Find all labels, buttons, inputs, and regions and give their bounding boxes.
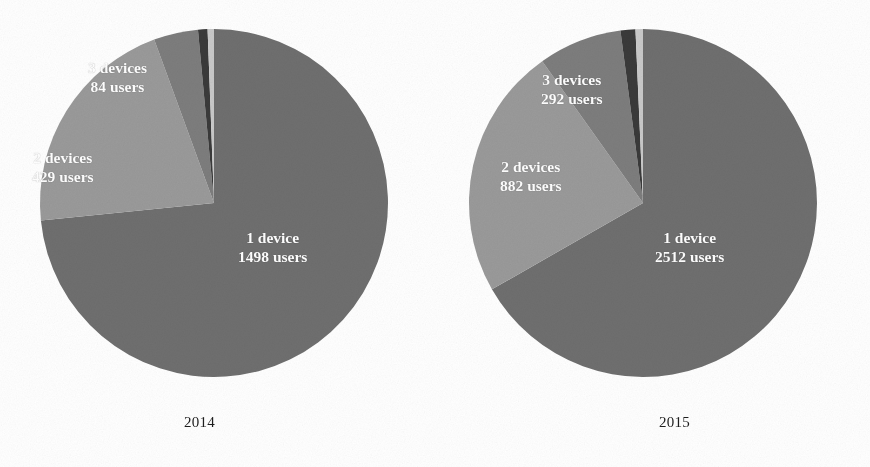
pie-panel-2015: 2015 xyxy=(435,0,870,467)
year-caption-2014: 2014 xyxy=(0,414,417,431)
year-caption-2015: 2015 xyxy=(457,414,870,431)
pie-panel-2014: 3 devices 84 users 2 devices 429 users 1… xyxy=(0,0,435,467)
pie-2014 xyxy=(0,0,435,410)
pie-2015 xyxy=(435,0,870,410)
pie-chart-figure: 3 devices 84 users 2 devices 429 users 1… xyxy=(0,0,870,467)
